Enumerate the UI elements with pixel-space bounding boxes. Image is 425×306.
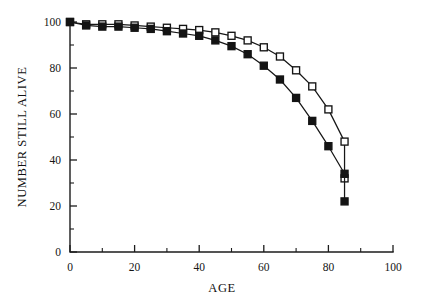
data-point-filled-square-series-0 [67,19,74,26]
series-line-open-square-series [70,22,345,178]
y-tick-label-0: 0 [55,246,61,258]
data-point-filled-square-series-11 [244,51,251,58]
y-tick-label-40: 40 [50,154,62,166]
data-point-filled-square-series-14 [293,94,300,101]
data-point-filled-square-series-10 [228,43,235,50]
x-axis-title: AGE [208,281,236,295]
data-point-filled-square-series-18 [341,198,348,205]
series-line-filled-square-series [70,22,345,201]
x-tick-label-20: 20 [129,261,141,273]
series-filled-square-series [67,19,349,205]
data-point-filled-square-series-5 [147,25,154,32]
data-point-filled-square-series-1 [83,22,90,29]
y-tick-label-100: 100 [44,16,62,28]
data-point-open-square-series-11 [244,37,251,44]
y-tick-label-80: 80 [50,62,62,74]
data-point-open-square-series-12 [260,44,267,51]
data-point-filled-square-series-17 [341,170,348,177]
data-point-filled-square-series-13 [276,76,283,83]
x-tick-label-100: 100 [384,261,402,273]
data-point-filled-square-series-7 [180,30,187,37]
data-point-open-square-series-10 [228,32,235,39]
data-point-open-square-series-17 [341,138,348,145]
data-point-filled-square-series-15 [309,117,316,124]
y-tick-label-20: 20 [50,200,62,212]
data-point-open-square-series-15 [309,83,316,90]
data-point-open-square-series-16 [325,106,332,113]
x-tick-label-80: 80 [323,261,335,273]
y-axis-tick-labels: 020406080100 [44,16,62,258]
x-tick-label-0: 0 [67,261,73,273]
survival-curve-chart: 020406080100 020406080100 AGE NUMBER STI… [0,0,425,306]
data-point-filled-square-series-3 [115,23,122,30]
data-point-filled-square-series-4 [131,24,138,31]
y-axis-title: NUMBER STILL ALIVE [15,67,29,208]
data-point-open-square-series-14 [293,67,300,74]
data-point-filled-square-series-16 [325,143,332,150]
data-point-filled-square-series-6 [163,28,170,35]
axis-spines [70,20,393,252]
data-point-open-square-series-13 [276,53,283,60]
x-tick-label-40: 40 [193,261,205,273]
chart-figure: 020406080100 020406080100 AGE NUMBER STI… [0,0,425,306]
y-tick-label-60: 60 [50,108,62,120]
series-open-square-series [67,19,349,182]
data-point-filled-square-series-8 [196,32,203,39]
x-tick-label-60: 60 [258,261,270,273]
data-point-filled-square-series-9 [212,37,219,44]
data-point-filled-square-series-2 [99,23,106,30]
series-group [67,19,349,205]
x-axis-tick-labels: 020406080100 [67,261,402,273]
data-point-open-square-series-9 [212,29,219,36]
data-point-filled-square-series-12 [260,62,267,69]
